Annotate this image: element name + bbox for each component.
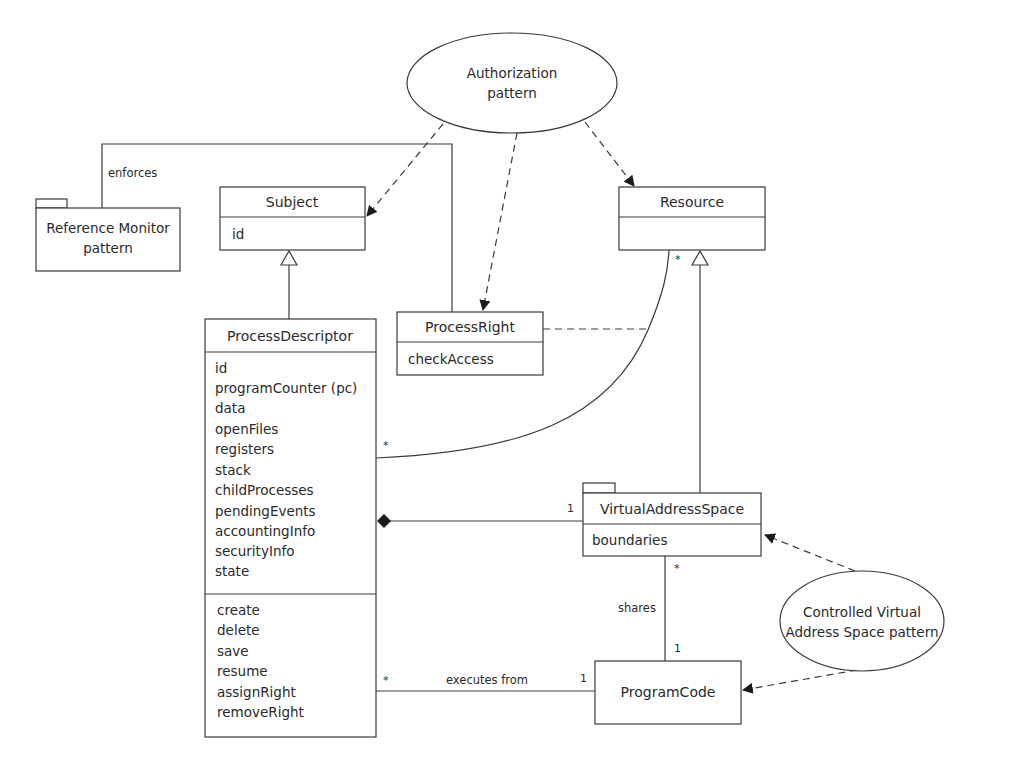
shares-vas-multiplicity: * bbox=[674, 562, 680, 575]
class-process-descriptor[interactable]: ProcessDescriptor id programCounter (pc)… bbox=[205, 319, 376, 737]
reference-monitor-line2: pattern bbox=[83, 240, 133, 256]
shares-association: shares * 1 bbox=[618, 556, 681, 661]
authorization-pattern-line2: pattern bbox=[487, 85, 537, 101]
programcode-class-name: ProgramCode bbox=[621, 684, 716, 700]
authorization-dependencies bbox=[367, 122, 634, 310]
executes-pd-multiplicity: * bbox=[383, 674, 389, 687]
attribute: state bbox=[215, 563, 249, 579]
operation: removeRight bbox=[217, 704, 304, 720]
attribute: programCounter (pc) bbox=[215, 380, 357, 396]
reference-monitor-package[interactable]: Reference Monitor pattern bbox=[36, 199, 180, 271]
attribute: data bbox=[215, 400, 245, 416]
auth-to-resource-arrow bbox=[585, 122, 634, 186]
controlled-vas-pattern[interactable]: Controlled Virtual Address Space pattern bbox=[780, 571, 944, 671]
processdescriptor-class-name: ProcessDescriptor bbox=[227, 328, 353, 344]
resource-class-name: Resource bbox=[660, 194, 724, 210]
processright-class-name: ProcessRight bbox=[425, 319, 515, 335]
class-virtual-address-space[interactable]: VirtualAddressSpace boundaries bbox=[583, 483, 761, 556]
shares-label: shares bbox=[618, 601, 656, 615]
vas-attribute: boundaries bbox=[592, 532, 667, 548]
operation: delete bbox=[217, 622, 260, 638]
generalization-subject bbox=[281, 251, 297, 319]
reference-monitor-line1: Reference Monitor bbox=[46, 220, 170, 236]
attribute: accountingInfo bbox=[215, 523, 315, 539]
vas-composition-multiplicity: 1 bbox=[567, 502, 574, 515]
enforces-label: enforces bbox=[108, 166, 157, 180]
class-resource[interactable]: Resource bbox=[619, 187, 765, 250]
pd-resource-multiplicity: * bbox=[383, 439, 389, 452]
auth-to-processright-arrow bbox=[483, 133, 517, 310]
shares-code-multiplicity: 1 bbox=[674, 642, 681, 655]
controlled-vas-line1: Controlled Virtual bbox=[803, 604, 921, 620]
authorization-pattern[interactable]: Authorization pattern bbox=[407, 33, 617, 133]
executes-from-association: executes from * 1 bbox=[376, 672, 595, 691]
subject-class-name: Subject bbox=[266, 194, 319, 210]
attribute: pendingEvents bbox=[215, 503, 316, 519]
operation: resume bbox=[217, 663, 268, 679]
uml-diagram: enforces * * 1 shares * 1 executes bbox=[0, 0, 1025, 762]
operation: create bbox=[217, 602, 260, 618]
vas-class-name: VirtualAddressSpace bbox=[600, 501, 744, 517]
auth-to-subject-arrow bbox=[367, 124, 443, 216]
authorization-pattern-line1: Authorization bbox=[467, 65, 557, 81]
class-subject[interactable]: Subject id bbox=[220, 187, 365, 250]
class-program-code[interactable]: ProgramCode bbox=[595, 661, 741, 724]
package-tab-icon bbox=[36, 199, 67, 208]
subject-attribute: id bbox=[232, 226, 244, 242]
controlled-vas-line2: Address Space pattern bbox=[785, 624, 938, 640]
attribute: securityInfo bbox=[215, 543, 294, 559]
attribute: registers bbox=[215, 441, 274, 457]
attribute: id bbox=[215, 360, 227, 376]
package-tab-icon bbox=[583, 483, 615, 493]
resource-pd-multiplicity: * bbox=[675, 253, 681, 266]
inheritance-triangle-icon bbox=[281, 251, 297, 265]
attribute: stack bbox=[215, 462, 251, 478]
operation: save bbox=[217, 643, 249, 659]
generalization-resource bbox=[692, 251, 708, 493]
executes-from-label: executes from bbox=[446, 673, 528, 687]
processright-operation: checkAccess bbox=[408, 351, 494, 367]
cvas-to-programcode-arrow bbox=[743, 670, 857, 690]
composition-diamond-icon bbox=[377, 514, 391, 528]
class-process-right[interactable]: ProcessRight checkAccess bbox=[397, 312, 543, 375]
cvas-to-vas-arrow bbox=[765, 535, 855, 571]
attribute: childProcesses bbox=[215, 482, 314, 498]
operation: assignRight bbox=[217, 684, 296, 700]
executes-code-multiplicity: 1 bbox=[580, 672, 587, 685]
attribute: openFiles bbox=[215, 421, 278, 437]
inheritance-triangle-icon bbox=[692, 251, 708, 265]
composition-vas: 1 bbox=[377, 502, 583, 528]
